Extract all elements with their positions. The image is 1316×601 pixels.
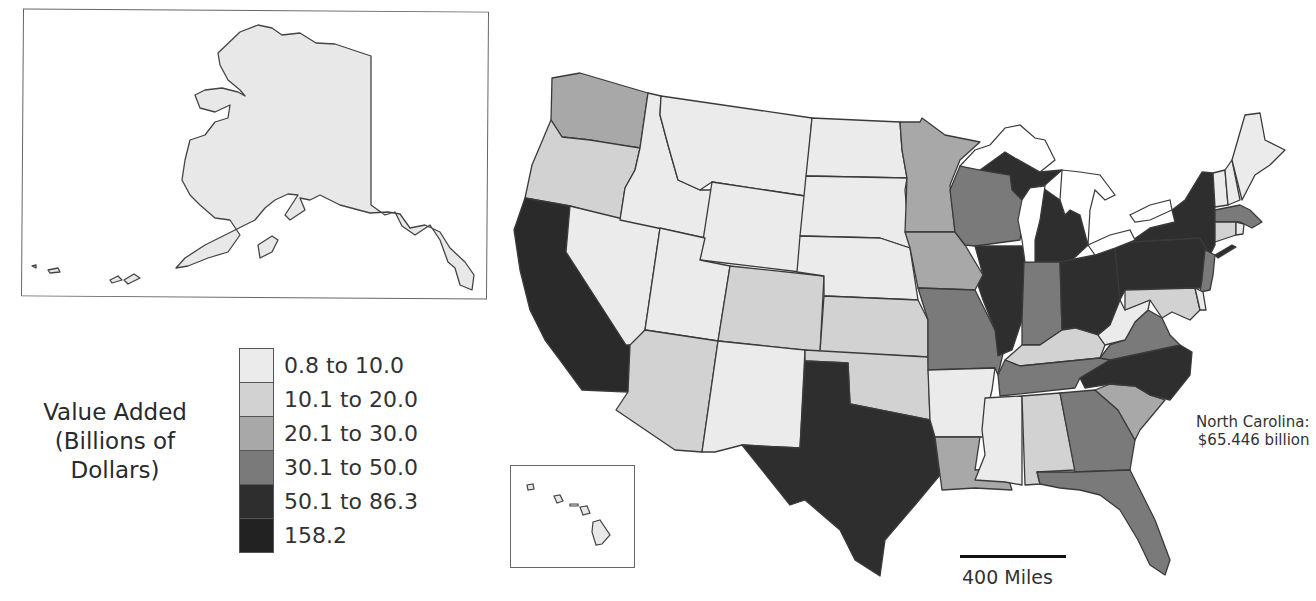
- annotation-line: North Carolina:: [1196, 413, 1310, 431]
- legend-title-line: (Billions of: [20, 427, 210, 456]
- scale-bar: [960, 555, 1066, 558]
- legend-swatch: [240, 383, 273, 417]
- state-north-dakota[interactable]: [806, 118, 907, 178]
- state-florida[interactable]: [1037, 470, 1170, 575]
- legend-swatch: [240, 485, 273, 519]
- legend-swatch: [240, 417, 273, 451]
- state-montana[interactable]: [660, 96, 812, 196]
- legend-label: 158.2: [284, 519, 418, 553]
- state-rhode-island[interactable]: [1236, 222, 1244, 235]
- long-island: [1215, 245, 1236, 258]
- legend-label: 20.1 to 30.0: [284, 417, 418, 451]
- state-wyoming[interactable]: [700, 182, 805, 272]
- legend-label: 0.8 to 10.0: [284, 349, 418, 383]
- legend-swatch: [240, 519, 273, 552]
- lake-ontario: [1130, 200, 1172, 222]
- legend-title-line: Dollars): [20, 456, 210, 485]
- state-arizona[interactable]: [616, 330, 718, 452]
- legend-swatches: [239, 348, 274, 553]
- state-colorado[interactable]: [718, 266, 824, 352]
- conus-map: [0, 0, 1316, 601]
- state-kansas[interactable]: [820, 296, 928, 357]
- state-new-mexico[interactable]: [702, 341, 805, 452]
- state-connecticut[interactable]: [1215, 222, 1236, 242]
- state-indiana[interactable]: [1022, 262, 1062, 345]
- legend-labels: 0.8 to 10.0 10.1 to 20.0 20.1 to 30.0 30…: [284, 349, 418, 553]
- legend-label: 30.1 to 50.0: [284, 451, 418, 485]
- legend-title-line: Value Added: [20, 398, 210, 427]
- legend-swatch: [240, 451, 273, 485]
- legend-title: Value Added (Billions of Dollars): [20, 398, 210, 485]
- state-maine[interactable]: [1232, 113, 1285, 200]
- legend-label: 10.1 to 20.0: [284, 383, 418, 417]
- annotation-line: $65.446 billion: [1196, 431, 1310, 449]
- legend-label: 50.1 to 86.3: [284, 485, 418, 519]
- north-carolina-annotation: North Carolina: $65.446 billion: [1196, 413, 1310, 449]
- legend-swatch: [240, 349, 273, 383]
- scale-label: 400 Miles: [962, 566, 1053, 588]
